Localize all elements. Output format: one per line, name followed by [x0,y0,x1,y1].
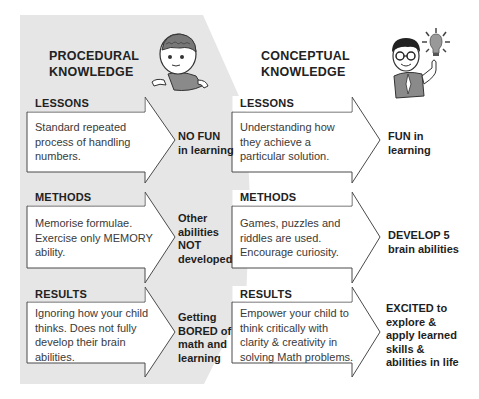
left-results-heading: RESULTS [35,288,87,300]
left-lessons-body: Standard repeatedprocess of handlingnumb… [35,120,130,164]
left-methods-body: Memorise formulae.Exercise only MEMORYab… [35,216,153,260]
right-results-body: Empower your child tothink critically wi… [240,306,353,364]
left-methods-outcome: OtherabilitiesNOTdeveloped [178,212,232,266]
left-methods-heading: METHODS [35,191,91,203]
right-lessons-heading: LESSONS [240,97,294,109]
right-results-heading: RESULTS [240,288,292,300]
conceptual-title: CONCEPTUAL KNOWLEDGE [261,48,350,80]
left-results-outcome: GettingBORED ofmath andlearning [178,311,231,365]
right-results-outcome: EXCITED toexplore &apply learnedskills &… [386,302,459,370]
left-lessons-outcome: NO FUNin learning [178,130,234,157]
left-results-body: Ignoring how your childthinks. Does not … [35,306,148,364]
right-methods-outcome: DEVELOP 5brain abilities [388,229,459,256]
left-lessons-heading: LESSONS [35,97,89,109]
procedural-title: PROCEDURAL KNOWLEDGE [49,48,139,80]
boy-with-lightbulb-icon [386,26,454,100]
right-methods-body: Games, puzzles andriddles are used.Encou… [240,216,340,260]
boy-with-brain-icon [150,30,212,92]
right-methods-heading: METHODS [240,191,296,203]
right-lessons-body: Understanding howthey achieve aparticula… [240,120,335,164]
right-lessons-outcome: FUN inlearning [388,130,431,157]
